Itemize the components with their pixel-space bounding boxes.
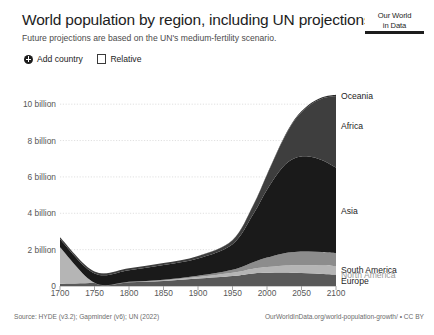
chart-title: World population by region, including UN… [22,10,424,29]
chart-header: World population by region, including UN… [22,10,424,44]
chart-controls: Add country Relative [24,54,141,64]
checkbox-icon [97,54,107,64]
owid-logo-line1: Our World [365,11,424,21]
x-axis-tick-label: 1800 [120,288,139,298]
add-country-button[interactable]: Add country [24,54,83,64]
plot-area: 02 billion4 billion6 billion8 billion10 … [0,70,434,305]
y-axis-labels: 02 billion4 billion6 billion8 billion10 … [0,70,56,305]
x-axis-tick-label: 2100 [327,288,346,298]
chart-footer: Source: HYDE (v3.2); Gapminder (v6); UN … [14,313,424,327]
x-axis-tick-label: 1750 [85,288,104,298]
y-axis-tick-label: 8 billion [28,136,56,146]
chart-page: World population by region, including UN… [0,0,434,335]
source-note: Source: HYDE (v3.2); Gapminder (v6); UN … [14,313,159,320]
x-axis-tick-label: 1900 [189,288,208,298]
stacked-area-chart[interactable] [0,70,434,305]
x-axis-tick-label: 2000 [258,288,277,298]
x-axis-tick-label: 1950 [223,288,242,298]
x-axis-tick-label: 1700 [51,288,70,298]
relative-toggle[interactable]: Relative [97,54,142,64]
add-country-label: Add country [37,54,83,64]
owid-logo[interactable]: Our World in Data [365,11,424,34]
attribution-note[interactable]: OurWorldInData.org/world-population-grow… [265,313,424,320]
x-axis-labels: 170017501800185019001950200020502100 [0,288,434,302]
chart-subtitle: Future projections are based on the UN's… [22,32,424,44]
y-axis-tick-label: 4 billion [28,208,56,218]
y-axis-tick-label: 6 billion [28,172,56,182]
y-axis-tick-label: 10 billion [23,99,56,109]
x-axis-tick-label: 1850 [154,288,173,298]
y-axis-tick-label: 2 billion [28,245,56,255]
owid-logo-rule [365,31,424,34]
owid-logo-line2: in Data [365,21,424,31]
plus-circle-icon [24,55,33,64]
x-axis-tick-label: 2050 [292,288,311,298]
relative-label: Relative [110,54,141,64]
